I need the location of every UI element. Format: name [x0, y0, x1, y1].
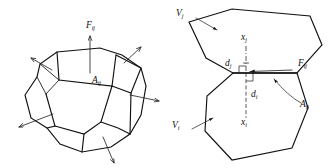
polyhedron-right-lower-edge	[130, 93, 131, 134]
label-centroid-upper: xj	[241, 33, 247, 43]
polyhedron-outer-outline	[25, 48, 146, 152]
left-panel-polyhedron	[19, 36, 159, 163]
right-panel-cell-pair	[189, 9, 322, 160]
flux-arrow	[250, 70, 292, 72]
polyhedron-front-left-face	[46, 94, 55, 128]
leader-cell-upper	[196, 18, 217, 30]
polyhedron-left-face	[37, 64, 59, 94]
label-distance-lower: di	[251, 90, 257, 100]
polyhedron-front-center-face	[55, 86, 112, 134]
diagram-canvas	[0, 0, 332, 168]
face-normal-lower-left-arrow	[19, 114, 53, 127]
cell-lower-polygon	[205, 73, 308, 160]
polyhedron-bottom-center-edge	[82, 134, 84, 152]
leader-area-face	[274, 79, 301, 103]
face-normal-upper-right-arrow	[124, 47, 141, 63]
label-area-left: Aij	[92, 76, 101, 86]
label-cell-lower: Vi	[172, 121, 179, 131]
figure-container: Fij Aij Vj Vi xj xi dj di Fij Aij	[0, 0, 332, 168]
label-flux-right: Fij	[298, 59, 307, 69]
polyhedron-lower-right-edge	[101, 122, 130, 134]
leader-cell-lower	[192, 118, 213, 129]
right-angle-lower-marker	[246, 73, 253, 81]
label-area-right: Aij	[300, 100, 309, 110]
label-centroid-lower: xi	[241, 118, 247, 128]
label-flux-left: Fij	[86, 21, 95, 31]
label-cell-upper: Vj	[176, 9, 183, 19]
right-angle-upper-marker	[239, 66, 246, 73]
label-distance-upper: dj	[225, 59, 231, 69]
polyhedron-top-face	[57, 52, 116, 86]
face-normal-upper-left-arrow	[31, 58, 52, 70]
face-normal-bottom-arrow	[103, 137, 114, 163]
